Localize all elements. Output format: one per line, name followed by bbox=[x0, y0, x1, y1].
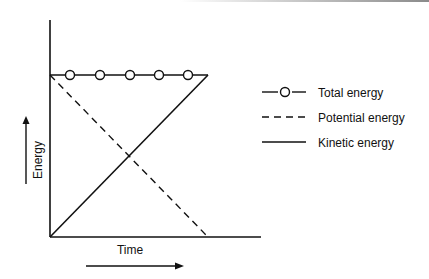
right-arrow-icon bbox=[86, 263, 184, 270]
total-energy-marker bbox=[155, 71, 164, 80]
total-energy-marker bbox=[96, 71, 105, 80]
x-axis-label: Time bbox=[117, 243, 144, 257]
legend-label: Total energy bbox=[318, 86, 383, 100]
total-energy-marker bbox=[126, 71, 135, 80]
legend-item-kinetic-energy: Kinetic energy bbox=[262, 136, 394, 150]
total-energy-marker bbox=[66, 71, 75, 80]
legend-label: Kinetic energy bbox=[318, 136, 394, 150]
legend-label: Potential energy bbox=[318, 111, 405, 125]
y-axis-label: Energy bbox=[31, 141, 45, 179]
legend: Total energy Potential energy Kinetic en… bbox=[262, 86, 405, 150]
legend-item-total-energy: Total energy bbox=[262, 86, 383, 100]
series-total-energy bbox=[50, 71, 208, 80]
up-arrow-icon bbox=[23, 116, 30, 184]
total-energy-marker bbox=[184, 71, 193, 80]
legend-item-potential-energy: Potential energy bbox=[262, 111, 405, 125]
energy-chart: Energy Time Total energy Potential energ… bbox=[0, 0, 429, 279]
